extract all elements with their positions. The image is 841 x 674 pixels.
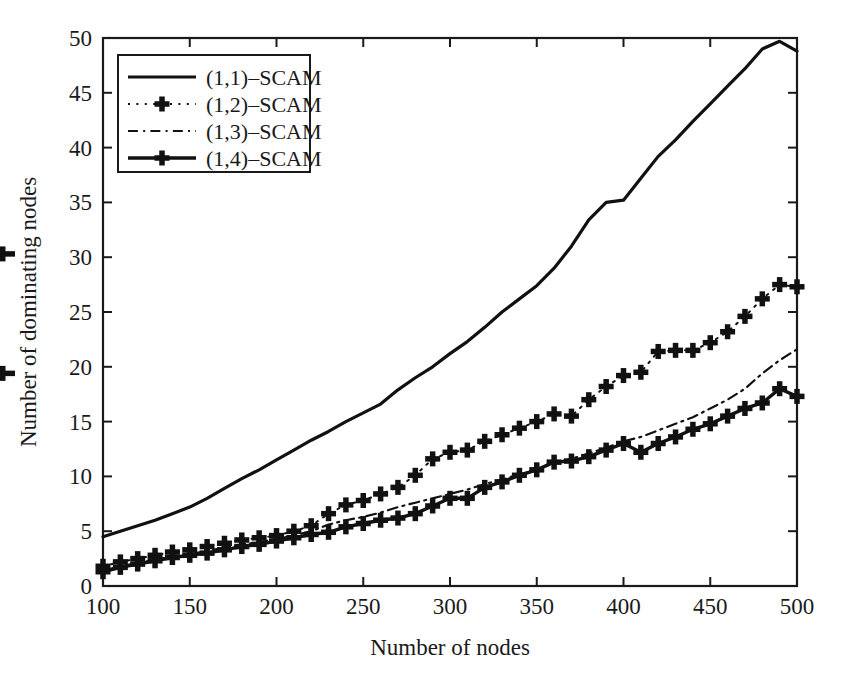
data-point-marker — [790, 389, 805, 404]
marker-v — [378, 486, 384, 501]
y-tick-label: 25 — [69, 300, 92, 325]
x-tick-label: 500 — [780, 594, 815, 619]
y-tick-label: 10 — [69, 464, 92, 489]
marker-v — [482, 434, 488, 449]
data-point-marker — [564, 409, 579, 424]
data-point-marker — [581, 449, 596, 464]
data-point-marker — [633, 365, 648, 380]
y-tick-label: 50 — [69, 26, 92, 51]
chart-legend: (1,1)–SCAM(1,2)–SCAM(1,3)–SCAM(1,4)–SCAM — [118, 55, 322, 172]
y-tick-label: 20 — [69, 355, 92, 380]
data-point-marker — [547, 455, 562, 470]
data-point-marker — [356, 493, 371, 508]
legend-label-4: (1,4)–SCAM — [206, 146, 322, 171]
y-tick-label: 45 — [69, 81, 92, 106]
marker-v — [708, 335, 714, 350]
marker-v — [760, 291, 766, 306]
marker-v — [673, 429, 679, 444]
marker-v — [794, 389, 800, 404]
marker-v — [534, 414, 540, 429]
x-tick-label: 150 — [173, 594, 208, 619]
data-point-marker — [616, 368, 631, 383]
marker-v — [239, 539, 245, 554]
marker-v — [777, 381, 783, 396]
marker-v — [413, 506, 419, 521]
marker-v — [465, 443, 471, 458]
marker-v — [777, 277, 783, 292]
marker-v — [534, 462, 540, 477]
data-point-marker — [703, 416, 718, 431]
x-tick-label: 350 — [520, 594, 555, 619]
data-point-marker — [668, 343, 683, 358]
marker-v — [551, 406, 557, 421]
y-tick-label: 30 — [69, 245, 92, 270]
marker-v — [690, 422, 696, 437]
data-point-marker — [633, 445, 648, 460]
y-tick-label: 5 — [81, 519, 93, 544]
marker-v — [343, 519, 349, 534]
marker-v — [0, 246, 6, 261]
marker-v — [499, 474, 505, 489]
marker-v — [725, 324, 731, 339]
x-tick-label: 250 — [346, 594, 381, 619]
y-axis-label: Number of dominating nodes — [16, 177, 41, 447]
data-point-marker — [356, 516, 371, 531]
marker-v — [378, 513, 384, 528]
x-tick-label: 300 — [433, 594, 468, 619]
marker-v — [118, 560, 124, 575]
data-point-marker — [390, 480, 405, 495]
data-point-marker — [737, 401, 752, 416]
marker-v — [499, 427, 505, 442]
marker-v — [361, 493, 367, 508]
data-point-marker — [373, 486, 388, 501]
marker-v — [569, 409, 575, 424]
x-axis-label: Number of nodes — [370, 635, 530, 660]
marker-v — [690, 343, 696, 358]
marker-v — [159, 151, 165, 166]
data-point-marker — [599, 379, 614, 394]
marker-v — [569, 454, 575, 469]
marker-v — [603, 443, 609, 458]
marker-v — [638, 365, 644, 380]
chart-figure: 05101520253035404550 1001502002503003504… — [0, 0, 841, 674]
marker-v — [326, 525, 332, 540]
marker-v — [638, 445, 644, 460]
marker-v — [725, 409, 731, 424]
data-point-marker — [0, 246, 15, 261]
line-chart-canvas: 05101520253035404550 1001502002503003504… — [0, 0, 841, 674]
legend-label-2: (1,2)–SCAM — [206, 92, 322, 117]
marker-v — [482, 480, 488, 495]
marker-v — [0, 366, 6, 381]
marker-v — [413, 468, 419, 483]
x-tick-label: 100 — [86, 594, 121, 619]
data-point-marker — [0, 366, 15, 381]
marker-v — [465, 491, 471, 506]
x-axis-tick-labels: 100150200250300350400450500 — [86, 594, 815, 619]
marker-v — [621, 368, 627, 383]
data-point-marker — [390, 511, 405, 526]
data-point-marker — [512, 468, 527, 483]
legend-label-1: (1,1)–SCAM — [206, 65, 322, 90]
data-point-marker — [720, 324, 735, 339]
marker-v — [291, 530, 297, 545]
marker-v — [361, 516, 367, 531]
data-point-marker — [460, 443, 475, 458]
data-point-marker — [529, 414, 544, 429]
marker-v — [430, 451, 436, 466]
y-tick-label: 35 — [69, 190, 92, 215]
data-point-marker — [529, 462, 544, 477]
marker-v — [256, 537, 262, 552]
series-line — [103, 349, 797, 570]
data-point-marker — [668, 429, 683, 444]
marker-v — [517, 468, 523, 483]
marker-v — [621, 436, 627, 451]
marker-v — [222, 542, 228, 557]
marker-v — [100, 564, 106, 579]
marker-v — [170, 550, 176, 565]
y-tick-label: 15 — [69, 410, 92, 435]
data-point-marker — [790, 279, 805, 294]
data-point-marker — [477, 434, 492, 449]
data-point-marker — [564, 454, 579, 469]
marker-v — [274, 534, 280, 549]
data-point-marker — [616, 436, 631, 451]
